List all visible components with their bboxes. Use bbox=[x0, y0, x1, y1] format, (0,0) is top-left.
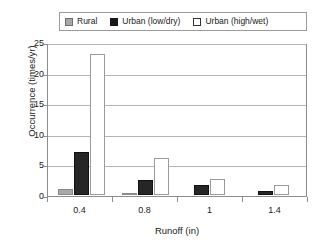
x-axis-tick-label: 0.4 bbox=[50, 205, 110, 215]
x-axis-tick-label: 1.4 bbox=[245, 205, 305, 215]
legend-swatch-urban-high-wet bbox=[193, 18, 201, 26]
bar-rural[interactable] bbox=[122, 193, 137, 195]
x-axis-title: Runoff (in) bbox=[47, 226, 307, 236]
chart-legend: Rural Urban (low/dry) Urban (high/wet) bbox=[59, 12, 307, 31]
x-axis-tick-label: 0.8 bbox=[115, 205, 175, 215]
legend-entry-urban-high-wet: Urban (high/wet) bbox=[193, 17, 268, 26]
bar-chart: Rural Urban (low/dry) Urban (high/wet) O… bbox=[0, 0, 320, 247]
x-axis-tick-label: 1 bbox=[180, 205, 240, 215]
legend-entry-rural: Rural bbox=[65, 17, 97, 26]
y-axis-tick-label: 10 bbox=[4, 131, 44, 140]
y-axis-tick-label: 20 bbox=[4, 70, 44, 79]
bar-highwet[interactable] bbox=[154, 158, 169, 195]
x-axis-tick-mark bbox=[242, 197, 243, 202]
bar-rural[interactable] bbox=[58, 189, 73, 195]
bar-group bbox=[241, 44, 305, 195]
bar-group bbox=[177, 44, 241, 195]
y-axis-title: Occurrence (times/yr) bbox=[27, 11, 37, 171]
legend-label-urban-high-wet: Urban (high/wet) bbox=[205, 17, 268, 26]
bar-groups bbox=[49, 44, 305, 195]
bar-lowdry[interactable] bbox=[194, 185, 209, 195]
legend-label-rural: Rural bbox=[77, 17, 97, 26]
y-axis-tick-label: 15 bbox=[4, 100, 44, 109]
legend-swatch-urban-low-dry bbox=[110, 18, 118, 26]
y-axis-tick-label: 25 bbox=[4, 39, 44, 48]
bar-highwet[interactable] bbox=[210, 179, 225, 195]
y-axis-tick-label: 5 bbox=[4, 161, 44, 170]
bar-lowdry[interactable] bbox=[74, 152, 89, 195]
bar-group bbox=[113, 44, 177, 195]
legend-label-urban-low-dry: Urban (low/dry) bbox=[122, 17, 180, 26]
bar-highwet[interactable] bbox=[90, 54, 105, 195]
bar-lowdry[interactable] bbox=[138, 180, 153, 195]
x-axis-tick-mark bbox=[112, 197, 113, 202]
bar-group bbox=[49, 44, 113, 195]
bar-lowdry[interactable] bbox=[258, 191, 273, 195]
legend-entry-urban-low-dry: Urban (low/dry) bbox=[110, 17, 180, 26]
y-axis-tick-label: 0 bbox=[4, 192, 44, 201]
x-axis-tick-mark bbox=[47, 197, 48, 202]
bar-highwet[interactable] bbox=[274, 185, 289, 195]
x-axis-tick-mark bbox=[177, 197, 178, 202]
plot-area bbox=[47, 44, 307, 197]
x-axis-tick-mark bbox=[307, 197, 308, 202]
legend-swatch-rural bbox=[65, 18, 73, 26]
